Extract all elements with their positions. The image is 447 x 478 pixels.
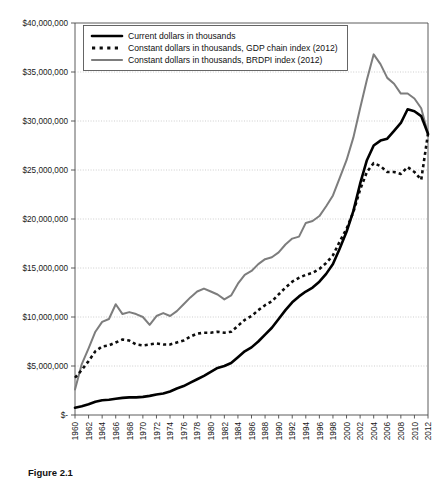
y-tick-label: $20,000,000 [22,215,68,224]
x-tick-label: 2002 [356,422,365,441]
x-tick-label: 2004 [370,422,379,441]
chart-legend: Current dollars in thousands Constant do… [84,26,348,71]
x-tick-label: 1970 [139,422,148,441]
legend-label-brdpi: Constant dollars in thousands, BRDPI ind… [128,55,323,65]
x-tick-label: 1986 [248,422,257,441]
x-tick-label: 1978 [193,422,202,441]
x-tick-label: 2012 [424,422,433,441]
x-tick-label: 1980 [207,422,216,441]
x-tick-label: 1994 [302,422,311,441]
x-tick-label: 1982 [221,422,230,441]
y-tick-label: $30,000,000 [22,117,68,126]
y-tick-label: $15,000,000 [22,264,68,273]
line-chart: $40,000,000$35,000,000$30,000,000$25,000… [0,0,447,478]
x-tick-label: 2008 [397,422,406,441]
x-tick-label: 1984 [234,422,243,441]
x-tick-label: 2000 [343,422,352,441]
y-tick-label: $35,000,000 [22,68,68,77]
y-tick-label: $10,000,000 [22,313,68,322]
x-tick-label: 1972 [153,422,162,441]
y-tick-label: $5,000,000 [27,362,68,371]
x-tick-label: 1968 [126,422,135,441]
x-tick-label: 1966 [112,422,121,441]
x-tick-label: 1960 [71,422,80,441]
x-tick-label: 1996 [316,422,325,441]
x-tick-label: 1990 [275,422,284,441]
figure-caption-text: Figure 2.1 [28,467,74,478]
legend-label-current-dollars: Current dollars in thousands [128,31,235,41]
y-axis-ticks: $40,000,000$35,000,000$30,000,000$25,000… [22,19,75,420]
x-tick-label: 1998 [329,422,338,441]
x-tick-label: 1964 [98,422,107,441]
x-tick-label: 1992 [288,422,297,441]
y-tick-label: $40,000,000 [22,19,68,28]
figure-container: $40,000,000$35,000,000$30,000,000$25,000… [0,0,447,478]
legend-label-gdp-chain: Constant dollars in thousands, GDP chain… [128,43,338,53]
x-axis-ticks: 1960196219641966196819701972197419761978… [71,415,433,440]
x-tick-label: 1974 [166,422,175,441]
gridlines-group [75,72,428,366]
data-series-group [75,54,428,407]
y-tick-label: $25,000,000 [22,166,68,175]
x-tick-label: 1976 [180,422,189,441]
y-tick-label: $- [61,411,69,420]
x-tick-label: 1962 [85,422,94,441]
figure-caption: Figure 2.1 [28,467,74,478]
x-tick-label: 2010 [411,422,420,441]
series-line-current-dollars [75,109,428,407]
x-tick-label: 1988 [261,422,270,441]
x-tick-label: 2006 [383,422,392,441]
